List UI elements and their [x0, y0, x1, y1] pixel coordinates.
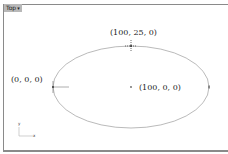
axis-y-label: y	[18, 121, 20, 126]
center-point-marker[interactable]	[130, 86, 132, 88]
axis-widget	[19, 127, 33, 136]
axis-x-label: x	[33, 133, 35, 138]
top-viewport[interactable]: Top ▾ (100, 25, 0) (0, 0, 0) (100, 0, 0)…	[0, 0, 228, 154]
top-point-label: (100, 25, 0)	[110, 28, 157, 38]
center-point-label: (100, 0, 0)	[139, 83, 181, 93]
left-point-handle[interactable]	[52, 81, 69, 93]
left-point-label: (0, 0, 0)	[11, 75, 43, 85]
right-point-marker[interactable]	[208, 86, 210, 89]
